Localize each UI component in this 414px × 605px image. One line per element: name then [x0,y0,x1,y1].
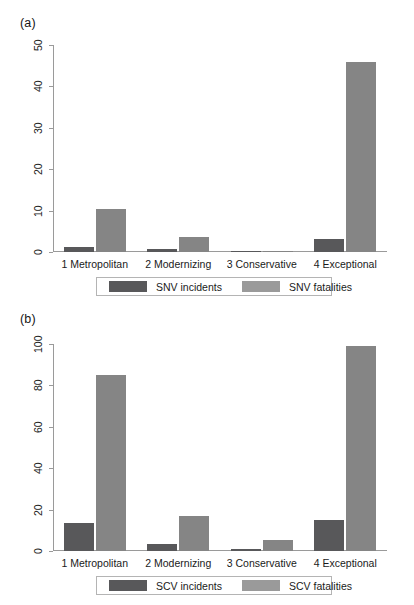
bar-a-1-1 [179,237,209,252]
bar-a-3-0 [314,239,344,252]
bar-b-1-0 [147,544,177,551]
y-tick-b-3 [49,427,53,428]
legend-swatch-icon-b-0 [109,580,147,591]
y-tick-b-0 [49,551,53,552]
y-tick-label-b-3: 60 [31,415,45,439]
y-tick-label-a-4: 40 [31,74,45,98]
plot-area-b: 1 Metropolitan2 Modernizing3 Conservativ… [53,344,387,551]
bar-a-3-1 [346,62,376,252]
legend-swatch-icon-a-1 [242,281,280,292]
legend-item-b-1[interactable]: SCV fatalities [242,577,352,594]
y-tick-label-b-0: 0 [31,539,45,563]
figure-root: (a) 1 Metropolitan2 Modernizing3 Conserv… [0,0,414,605]
plot-area-a: 1 Metropolitan2 Modernizing3 Conservativ… [53,45,387,252]
bar-group [314,45,376,252]
x-axis-label-b-2: 3 Conservative [227,557,297,569]
legend-a: SNV incidentsSNV fatalities [96,277,332,296]
y-tick-label-a-5: 50 [31,33,45,57]
x-axis-label-b-3: 4 Exceptional [314,557,377,569]
x-axis-label-a-2: 3 Conservative [227,258,297,270]
bar-group [314,344,376,551]
y-tick-b-4 [49,385,53,386]
legend-item-b-0[interactable]: SCV incidents [109,577,222,594]
x-axis-label-a-3: 4 Exceptional [314,258,377,270]
legend-item-a-1[interactable]: SNV fatalities [242,278,352,295]
bar-b-2-0 [231,549,261,551]
y-tick-b-5 [49,344,53,345]
legend-item-a-0[interactable]: SNV incidents [109,278,222,295]
legend-label-b-0: SCV incidents [156,580,222,592]
y-tick-b-2 [49,468,53,469]
y-tick-label-b-5: 100 [31,332,45,356]
y-tick-a-5 [49,45,53,46]
bar-b-2-1 [263,540,293,551]
bar-group-container-b: 1 Metropolitan2 Modernizing3 Conservativ… [53,344,387,551]
legend-label-b-1: SCV fatalities [289,580,352,592]
y-tick-a-4 [49,86,53,87]
bar-group [231,344,293,551]
bar-group [64,45,126,252]
legend-swatch-icon-a-0 [109,281,147,292]
panel-b: (b) 1 Metropolitan2 Modernizing3 Conserv… [0,302,414,605]
y-tick-label-b-4: 80 [31,373,45,397]
bar-a-0-0 [64,247,94,252]
y-tick-label-a-0: 0 [31,240,45,264]
y-tick-label-a-2: 20 [31,157,45,181]
legend-label-a-1: SNV fatalities [289,281,352,293]
panel-a: (a) 1 Metropolitan2 Modernizing3 Conserv… [0,0,414,302]
legend-swatch-icon-b-1 [242,580,280,591]
y-tick-a-0 [49,252,53,253]
legend-b: SCV incidentsSCV fatalities [96,576,332,595]
bar-group [147,45,209,252]
bar-b-0-1 [96,375,126,551]
panel-b-label: (b) [20,312,36,326]
bar-a-1-0 [147,249,177,252]
bar-a-2-1 [263,251,293,252]
x-axis-label-b-0: 1 Metropolitan [61,557,128,569]
bar-group [147,344,209,551]
bar-group [231,45,293,252]
bar-b-1-1 [179,516,209,551]
x-axis-label-a-1: 2 Modernizing [145,258,211,270]
y-tick-a-1 [49,211,53,212]
legend-label-a-0: SNV incidents [156,281,222,293]
y-tick-a-3 [49,128,53,129]
y-tick-label-a-1: 10 [31,199,45,223]
bar-a-0-1 [96,209,126,252]
y-tick-b-1 [49,510,53,511]
bar-b-0-0 [64,523,94,551]
panel-a-label: (a) [20,16,36,30]
bar-b-3-0 [314,520,344,551]
x-axis-label-b-1: 2 Modernizing [145,557,211,569]
bar-group [64,344,126,551]
bar-b-3-1 [346,346,376,551]
y-tick-a-2 [49,169,53,170]
y-tick-label-a-3: 30 [31,116,45,140]
x-axis-label-a-0: 1 Metropolitan [61,258,128,270]
y-tick-label-b-1: 20 [31,498,45,522]
bar-group-container-a: 1 Metropolitan2 Modernizing3 Conservativ… [53,45,387,252]
y-tick-label-b-2: 40 [31,456,45,480]
bar-a-2-0 [231,251,261,252]
